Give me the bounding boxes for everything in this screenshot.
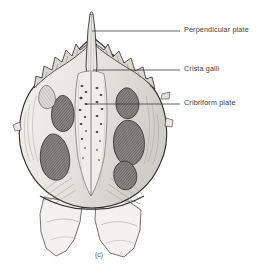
label-crista-galli: Crista galli	[184, 65, 219, 73]
ethmoid-bone-illustration	[0, 0, 256, 269]
figure-caption: (c)	[95, 251, 103, 258]
label-perpendicular-plate: Perpendicular plate	[184, 26, 249, 34]
ethmoid-bone-figure: Perpendicular plate Crista galli Cribrif…	[0, 0, 256, 269]
label-cribriform-plate: Cribriform plate	[184, 99, 236, 107]
